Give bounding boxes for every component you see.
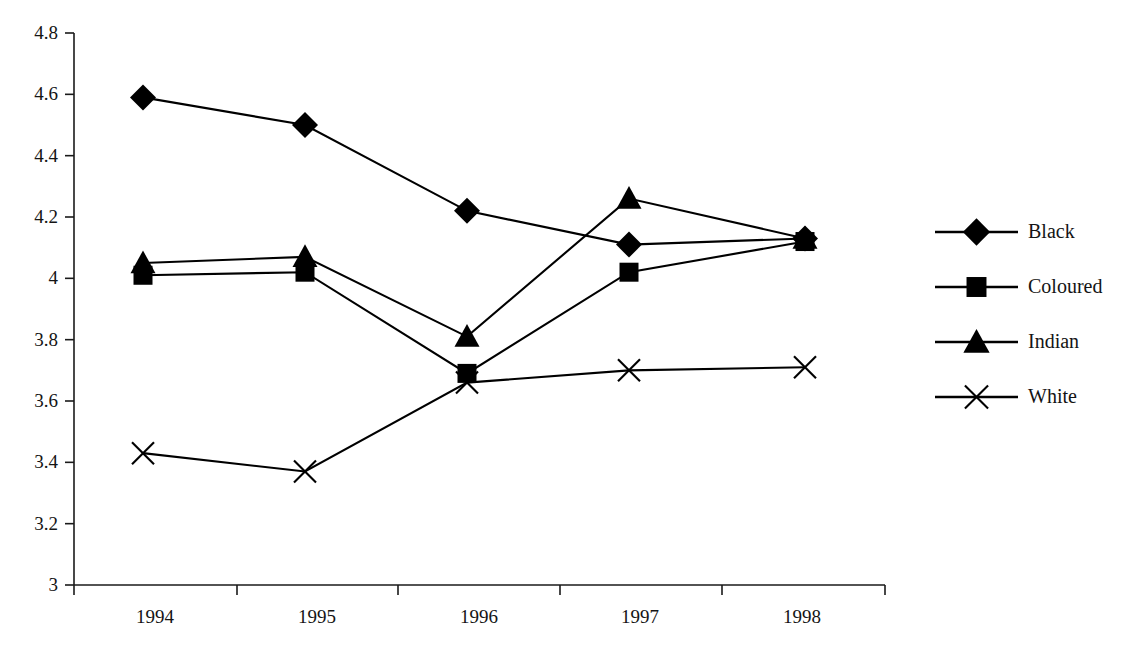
square-marker-icon bbox=[967, 277, 987, 297]
diamond-marker-icon bbox=[454, 198, 480, 224]
line-chart-figure: 33.23.43.63.844.24.44.64.8 1994199519961… bbox=[0, 0, 1139, 670]
y-tick-label: 3.6 bbox=[34, 390, 58, 411]
x-tick-group bbox=[74, 585, 885, 595]
x-tick-label: 1996 bbox=[460, 606, 498, 627]
y-tick-label: 4.4 bbox=[34, 145, 58, 166]
legend-item-indian[interactable]: Indian bbox=[935, 329, 1079, 353]
legend-item-coloured[interactable]: Coloured bbox=[935, 275, 1102, 297]
x-tick-label-group: 19941995199619971998 bbox=[136, 606, 821, 627]
y-tick-label: 3.2 bbox=[34, 513, 58, 534]
series-line-indian bbox=[143, 199, 805, 337]
legend-item-white[interactable]: White bbox=[935, 385, 1077, 409]
diamond-marker-icon bbox=[616, 232, 642, 258]
legend-item-black[interactable]: Black bbox=[935, 218, 1075, 245]
y-tick-label-group: 33.23.43.63.844.24.44.64.8 bbox=[34, 22, 58, 595]
x-tick-label: 1995 bbox=[298, 606, 336, 627]
series-line-white bbox=[143, 367, 805, 471]
y-tick-label: 4 bbox=[49, 267, 59, 288]
diamond-marker-icon bbox=[130, 84, 156, 110]
x-axis: 19941995199619971998 bbox=[74, 585, 885, 627]
y-tick-label: 4.6 bbox=[34, 83, 58, 104]
diamond-marker-icon bbox=[292, 112, 318, 138]
legend-label: White bbox=[1028, 385, 1077, 407]
series-coloured bbox=[134, 232, 815, 383]
square-marker-icon bbox=[620, 263, 639, 282]
series-line-coloured bbox=[143, 242, 805, 374]
legend-label: Black bbox=[1028, 220, 1075, 242]
y-tick-label: 4.8 bbox=[34, 22, 58, 43]
chart-canvas: 33.23.43.63.844.24.44.64.8 1994199519961… bbox=[0, 0, 1139, 670]
triangle-marker-icon bbox=[617, 186, 642, 209]
series-layer bbox=[130, 84, 818, 482]
y-axis: 33.23.43.63.844.24.44.64.8 bbox=[34, 22, 74, 595]
square-marker-icon bbox=[458, 364, 477, 383]
legend-label: Coloured bbox=[1028, 275, 1102, 297]
series-black bbox=[130, 84, 818, 257]
legend-label: Indian bbox=[1028, 330, 1079, 352]
y-tick-label: 3.4 bbox=[34, 451, 58, 472]
triangle-marker-icon bbox=[455, 324, 480, 347]
series-white bbox=[132, 356, 816, 482]
x-tick-label: 1997 bbox=[621, 606, 659, 627]
chart-legend: BlackColouredIndianWhite bbox=[935, 218, 1102, 408]
y-tick-group bbox=[65, 33, 74, 585]
y-tick-label: 4.2 bbox=[34, 206, 58, 227]
y-tick-label: 3.8 bbox=[34, 329, 58, 350]
triangle-marker-icon bbox=[293, 244, 318, 267]
series-line-black bbox=[143, 97, 805, 244]
x-tick-label: 1994 bbox=[136, 606, 175, 627]
diamond-marker-icon bbox=[963, 218, 990, 245]
y-tick-label: 3 bbox=[49, 574, 59, 595]
x-tick-label: 1998 bbox=[783, 606, 821, 627]
